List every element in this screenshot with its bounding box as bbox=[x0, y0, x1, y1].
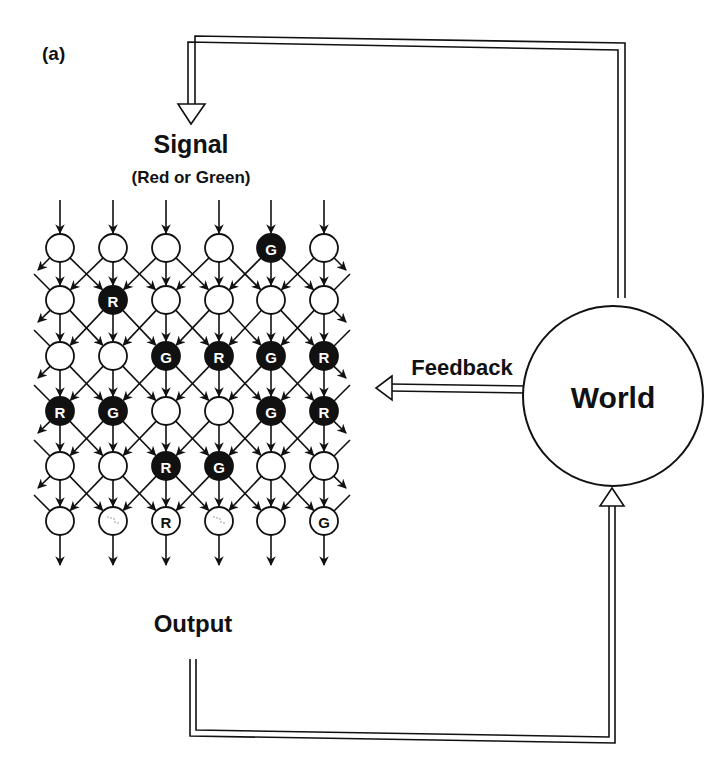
network-node bbox=[205, 397, 233, 425]
network-node: G bbox=[99, 397, 127, 425]
network-node bbox=[257, 507, 285, 535]
network-node bbox=[205, 507, 233, 535]
node-letter: G bbox=[160, 349, 172, 366]
network-node bbox=[99, 507, 127, 535]
inactive-node-circle bbox=[205, 234, 233, 262]
diagonal-edge-left-out bbox=[38, 258, 50, 270]
node-letter: G bbox=[107, 404, 119, 421]
inactive-node-circle bbox=[257, 286, 285, 314]
diagonal-edge-right-out bbox=[334, 258, 346, 270]
signal-subtitle: (Red or Green) bbox=[131, 168, 250, 187]
inactive-node-circle bbox=[152, 397, 180, 425]
network-node: G bbox=[257, 234, 285, 262]
signal-title: Signal bbox=[153, 130, 228, 158]
network-node bbox=[99, 452, 127, 480]
figure-label: (a) bbox=[42, 43, 65, 64]
output-label: Output bbox=[154, 610, 233, 637]
node-letter: R bbox=[161, 514, 172, 531]
inactive-node-circle bbox=[310, 452, 338, 480]
feedback-network-diagram: (a) Signal (Red or Green) Feedback World… bbox=[0, 0, 726, 777]
feedback-arrow-icon bbox=[376, 376, 392, 400]
inactive-node-circle bbox=[46, 234, 74, 262]
node-letter: R bbox=[108, 293, 119, 310]
edge-stub-left bbox=[34, 385, 50, 401]
network-node bbox=[310, 452, 338, 480]
speckle-mark bbox=[107, 516, 108, 517]
node-letter: R bbox=[214, 349, 225, 366]
network-node bbox=[99, 342, 127, 370]
feedback-label: Feedback bbox=[411, 355, 513, 380]
speckle-mark bbox=[216, 517, 217, 518]
diagonal-edge-right-out bbox=[334, 421, 346, 433]
inactive-node-circle bbox=[152, 234, 180, 262]
edge-stub-right bbox=[334, 440, 350, 456]
network-node bbox=[205, 234, 233, 262]
signal-feedback-pipe bbox=[188, 36, 625, 298]
network-node: G bbox=[152, 342, 180, 370]
inactive-node-circle bbox=[257, 452, 285, 480]
network-node bbox=[205, 286, 233, 314]
inactive-node-circle bbox=[99, 234, 127, 262]
network-node bbox=[46, 286, 74, 314]
network-node bbox=[46, 507, 74, 535]
diagonal-edge-left-out bbox=[38, 476, 50, 488]
speckle-mark bbox=[110, 517, 111, 518]
output-pipe bbox=[190, 505, 615, 743]
network-node: G bbox=[205, 452, 233, 480]
edge-stub-right bbox=[334, 385, 350, 401]
inactive-node-circle bbox=[46, 286, 74, 314]
edge-stub-left bbox=[34, 495, 50, 511]
edge-stub-left bbox=[34, 440, 50, 456]
node-letter: G bbox=[265, 241, 277, 258]
node-letter: R bbox=[161, 459, 172, 476]
network-node bbox=[152, 397, 180, 425]
inactive-node-circle bbox=[46, 342, 74, 370]
network-node: R bbox=[152, 507, 180, 535]
node-letter: R bbox=[319, 349, 330, 366]
node-letter: R bbox=[55, 404, 66, 421]
inactive-node-circle bbox=[205, 397, 233, 425]
network-node bbox=[152, 234, 180, 262]
speckle-mark bbox=[117, 522, 118, 523]
inactive-node-circle bbox=[152, 286, 180, 314]
node-letter: G bbox=[213, 459, 225, 476]
node-letter: G bbox=[318, 514, 330, 531]
diagonal-edge-right-out bbox=[334, 310, 346, 322]
speckle-mark bbox=[213, 516, 214, 517]
network-node: R bbox=[310, 397, 338, 425]
inactive-node-circle bbox=[99, 452, 127, 480]
feedback-pipe bbox=[390, 384, 528, 393]
network-node bbox=[152, 286, 180, 314]
edge-stub-right bbox=[334, 274, 350, 290]
network-node: G bbox=[310, 507, 338, 535]
diagonal-edge-right-out bbox=[334, 476, 346, 488]
speckle-mark bbox=[114, 521, 115, 522]
network-node bbox=[46, 342, 74, 370]
inactive-node-circle bbox=[46, 507, 74, 535]
diagonal-edge-left-out bbox=[38, 366, 50, 378]
edge-stub-left bbox=[34, 330, 50, 346]
network-node: R bbox=[205, 342, 233, 370]
edge-stub-right bbox=[334, 330, 350, 346]
world-input-arrow-icon bbox=[600, 488, 624, 506]
network-node bbox=[257, 452, 285, 480]
node-letter: G bbox=[265, 404, 277, 421]
node-letter: R bbox=[319, 404, 330, 421]
signal-input-arrow-icon bbox=[178, 104, 205, 124]
speckle-mark bbox=[219, 518, 220, 519]
diagonal-edge-left-out bbox=[38, 310, 50, 322]
network-node bbox=[46, 234, 74, 262]
network-node: R bbox=[152, 452, 180, 480]
network-node: R bbox=[310, 342, 338, 370]
inactive-node-circle bbox=[46, 452, 74, 480]
network-node: R bbox=[99, 286, 127, 314]
network-edges bbox=[34, 200, 350, 565]
speckle-mark bbox=[223, 522, 224, 523]
network-node: G bbox=[257, 342, 285, 370]
node-letter: G bbox=[265, 349, 277, 366]
diagonal-edge-right-out bbox=[334, 366, 346, 378]
edge-stub-right bbox=[334, 495, 350, 511]
inactive-node-circle bbox=[99, 507, 127, 535]
edge-stub-left bbox=[34, 274, 50, 290]
network-node bbox=[99, 234, 127, 262]
